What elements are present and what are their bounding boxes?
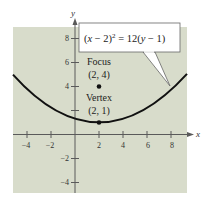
y-tick-label: 4	[65, 82, 69, 91]
focus-point	[97, 84, 102, 89]
equation-text: (x − 2)2 = 12(y − 1)	[84, 32, 166, 45]
vertex-coords: (2, 1)	[88, 105, 110, 117]
y-tick-label: 8	[65, 34, 69, 43]
parabola-chart: −4 −2 2 4 6 8 8 6 4 −2 −4 x y Focus (2, …	[0, 0, 213, 205]
y-tick-label: −2	[60, 154, 69, 163]
x-tick-label: 2	[97, 141, 101, 150]
x-tick-label: 8	[170, 141, 174, 150]
y-tick-label: −4	[60, 178, 69, 187]
focus-label: Focus	[87, 56, 111, 67]
x-axis-label: x	[195, 129, 200, 139]
vertex-point	[97, 120, 102, 125]
vertex-label: Vertex	[86, 92, 112, 103]
y-axis-label: y	[70, 8, 75, 18]
x-tick-label: 6	[146, 141, 150, 150]
y-tick-label: 6	[65, 58, 69, 67]
x-axis-arrow-icon	[187, 132, 194, 137]
x-tick-label: −2	[46, 141, 55, 150]
y-axis-arrow-icon	[73, 18, 78, 25]
x-tick-label: 4	[121, 141, 125, 150]
x-tick-label: −4	[22, 141, 31, 150]
focus-coords: (2, 4)	[88, 69, 110, 81]
